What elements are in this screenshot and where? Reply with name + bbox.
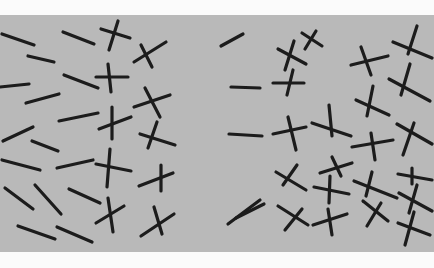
cross-stroke bbox=[329, 176, 330, 203]
line-segment bbox=[229, 134, 262, 136]
line-segment bbox=[231, 87, 260, 88]
stimulus-figure bbox=[0, 0, 434, 268]
gray-panel bbox=[0, 15, 434, 252]
texture-segregation-stimulus bbox=[0, 0, 434, 268]
